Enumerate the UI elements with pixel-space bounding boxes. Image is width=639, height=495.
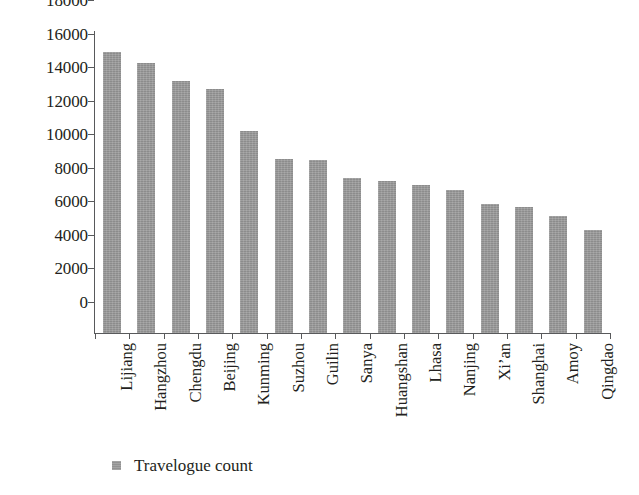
bar-slot (129, 31, 163, 333)
bar[interactable] (378, 181, 396, 333)
x-tick-mark (610, 333, 611, 339)
chart-legend: Travelogue count (112, 457, 253, 474)
x-tick-label-slot: Guilin (301, 343, 335, 438)
legend-label: Travelogue count (134, 457, 253, 474)
y-tick-label: 14000 (0, 59, 88, 76)
bar-slot (541, 31, 575, 333)
y-tick-label: 2000 (0, 260, 88, 277)
bar-slot (473, 31, 507, 333)
x-tick-label-slot: Xi’an (473, 343, 507, 438)
bar-slot (198, 31, 232, 333)
bar-slot (232, 31, 266, 333)
legend-square-marker-icon (112, 461, 121, 470)
y-tick-label: 4000 (0, 226, 88, 243)
bar[interactable] (103, 52, 121, 333)
x-tick-label-slot: Lhasa (404, 343, 438, 438)
y-tick-label: 12000 (0, 92, 88, 109)
x-tick-mark (198, 333, 199, 339)
bar-slot (576, 31, 610, 333)
y-axis: 0200040006000800010000120001400016000180… (0, 0, 88, 340)
bar[interactable] (240, 131, 258, 333)
x-tick-mark (473, 333, 474, 339)
x-tick-label-slot: Chengdu (164, 343, 198, 438)
y-tick-label: 6000 (0, 193, 88, 210)
bar-slot (404, 31, 438, 333)
y-tick-label: 18000 (0, 0, 88, 9)
x-tick-label-slot: Suzhou (267, 343, 301, 438)
bar[interactable] (412, 185, 430, 333)
y-tick-label: 0 (0, 294, 88, 311)
x-tick-label-slot: Beijing (198, 343, 232, 438)
x-tick-mark (576, 333, 577, 339)
x-tick-mark (95, 333, 96, 339)
x-tick-mark (370, 333, 371, 339)
x-tick-mark (301, 333, 302, 339)
y-tick-mark (88, 0, 94, 1)
bar[interactable] (309, 160, 327, 333)
x-tick-label-slot: Lijiang (95, 343, 129, 438)
x-tick-label-slot: Shanghai (507, 343, 541, 438)
bar[interactable] (481, 204, 499, 333)
bar[interactable] (446, 190, 464, 333)
x-tick-label-slot: Sanya (335, 343, 369, 438)
y-tick-label: 8000 (0, 159, 88, 176)
bar-slot (95, 31, 129, 333)
bar[interactable] (137, 63, 155, 333)
x-tick-mark (335, 333, 336, 339)
x-tick-mark (541, 333, 542, 339)
bar-slot (370, 31, 404, 333)
x-tick-label-slot: Nanjing (438, 343, 472, 438)
x-tick-label-slot: Huangshan (370, 343, 404, 438)
x-axis: LijiangHangzhouChengduBeijingKunmingSuzh… (95, 343, 610, 438)
x-tick-label-slot: Qingdao (576, 343, 610, 438)
x-tick-label-slot: Hangzhou (129, 343, 163, 438)
bar-slot (507, 31, 541, 333)
x-tick-mark (404, 333, 405, 339)
bar-slot (335, 31, 369, 333)
bar[interactable] (584, 230, 602, 333)
bar-slot (301, 31, 335, 333)
x-tick-label: Qingdao (600, 343, 617, 400)
x-tick-label-slot: Amoy (541, 343, 575, 438)
x-tick-mark (267, 333, 268, 339)
y-tick-label: 10000 (0, 126, 88, 143)
bar-slot (164, 31, 198, 333)
x-tick-mark (164, 333, 165, 339)
x-axis-line (94, 333, 610, 334)
x-tick-mark (507, 333, 508, 339)
bar[interactable] (275, 159, 293, 333)
x-tick-mark (232, 333, 233, 339)
x-tick-mark (129, 333, 130, 339)
y-tick-label: 16000 (0, 25, 88, 42)
plot-area (95, 31, 610, 333)
x-tick-label-slot: Kunming (232, 343, 266, 438)
bar[interactable] (343, 178, 361, 333)
bar-slot (267, 31, 301, 333)
bar[interactable] (549, 216, 567, 333)
bar-slot (438, 31, 472, 333)
bar[interactable] (172, 81, 190, 333)
x-tick-mark (438, 333, 439, 339)
bar[interactable] (206, 89, 224, 333)
bar-chart: 0200040006000800010000120001400016000180… (0, 0, 639, 495)
bar[interactable] (515, 207, 533, 333)
